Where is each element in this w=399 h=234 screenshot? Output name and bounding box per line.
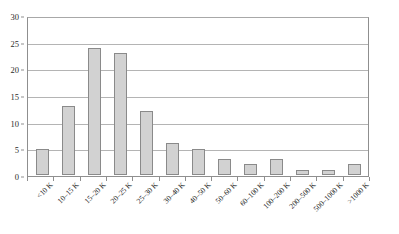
x-tick-label: 100–200 K [262,181,291,210]
bar[interactable] [218,159,231,175]
x-tick-mark [369,177,370,181]
bar-slot [211,18,237,175]
bar[interactable] [322,170,335,175]
bars-layer [29,18,367,175]
x-tick-label: 30–40 K [162,181,186,205]
bar[interactable] [296,170,309,175]
x-tick-label: 25–30 K [136,181,160,205]
bar[interactable] [62,106,75,175]
bar-slot [81,18,107,175]
y-tick-mark [21,17,24,18]
y-tick-label: 5 [15,146,19,155]
bar-slot [289,18,315,175]
x-tick-label: 10–15 K [57,181,81,205]
y-tick-label: 30 [11,13,20,22]
x-axis: <10 K10–15 K15–20 K20–25 K25–30 K30–40 K… [27,181,369,234]
y-tick-mark [21,70,24,71]
plot-area [27,17,369,177]
bar[interactable] [114,53,127,175]
x-tick-label: 20–25 K [109,181,133,205]
bar-slot [237,18,263,175]
y-tick-mark [21,97,24,98]
bar[interactable] [36,149,49,176]
bar[interactable] [140,111,153,175]
y-tick-mark [21,43,24,44]
bar-slot [107,18,133,175]
bar-slot [341,18,367,175]
y-tick-mark [21,123,24,124]
bar[interactable] [88,48,101,175]
x-tick-label: >1000 K [346,181,370,205]
bar-slot [185,18,211,175]
bar[interactable] [270,159,283,175]
x-tick-label: 40–50 K [188,181,212,205]
bar-slot [159,18,185,175]
x-tick-label: 15–20 K [83,181,107,205]
bar-slot [133,18,159,175]
y-tick-label: 20 [11,66,20,75]
y-tick-label: 10 [11,119,20,128]
bar[interactable] [166,143,179,175]
y-axis: 051015202530 [0,17,24,177]
bar-slot [315,18,341,175]
bar[interactable] [348,164,361,175]
bar[interactable] [244,164,257,175]
y-tick-mark [21,150,24,151]
x-tick-label: <10 K [36,181,55,200]
y-tick-label: 15 [11,93,20,102]
x-tick-label: 50–60 K [215,181,239,205]
y-tick-label: 25 [11,39,20,48]
y-tick-label: 0 [15,173,19,182]
bar-slot [29,18,55,175]
y-tick-mark [21,177,24,178]
bar-slot [55,18,81,175]
histogram-chart: 051015202530 <10 K10–15 K15–20 K20–25 K2… [0,0,399,234]
bar[interactable] [192,149,205,176]
bar-slot [263,18,289,175]
